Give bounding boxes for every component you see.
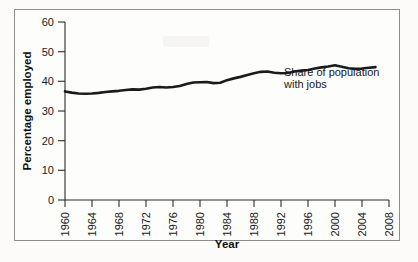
x-tick-label: 1984 xyxy=(221,212,233,236)
x-axis-title: Year xyxy=(215,238,240,250)
x-axis-tick-labels: 1960 1964 1968 1972 1976 1980 1984 1988 … xyxy=(59,212,395,236)
x-tick-label: 1980 xyxy=(194,212,206,236)
figure-container: 60 50 40 30 20 10 0 Percentage employed xyxy=(0,0,418,262)
y-tick-label: 60 xyxy=(42,16,54,28)
y-axis-ticks xyxy=(58,22,65,200)
y-axis-title: Percentage employed xyxy=(21,52,33,171)
line-chart: 60 50 40 30 20 10 0 Percentage employed xyxy=(0,0,418,262)
x-tick-label: 1976 xyxy=(167,212,179,236)
x-axis-ticks xyxy=(65,200,389,207)
y-tick-label: 40 xyxy=(42,75,54,87)
y-tick-label: 0 xyxy=(48,194,54,206)
y-tick-label: 10 xyxy=(42,164,54,176)
y-tick-label: 50 xyxy=(42,46,54,58)
x-tick-label: 2000 xyxy=(329,212,341,236)
x-tick-label: 1972 xyxy=(140,212,152,236)
y-tick-label: 30 xyxy=(42,105,54,117)
series-annotation-line1: Share of population xyxy=(284,66,379,78)
y-tick-label: 20 xyxy=(42,135,54,147)
x-tick-label: 1992 xyxy=(275,212,287,236)
x-tick-label: 1968 xyxy=(113,212,125,236)
x-tick-label: 1996 xyxy=(302,212,314,236)
x-tick-label: 1960 xyxy=(59,212,71,236)
x-tick-label: 1988 xyxy=(248,212,260,236)
x-tick-label: 1964 xyxy=(86,212,98,236)
x-tick-label: 2004 xyxy=(356,212,368,236)
series-annotation-line2: with jobs xyxy=(283,78,327,90)
x-tick-label: 2008 xyxy=(383,212,395,236)
y-axis-tick-labels: 60 50 40 30 20 10 0 xyxy=(42,16,54,206)
